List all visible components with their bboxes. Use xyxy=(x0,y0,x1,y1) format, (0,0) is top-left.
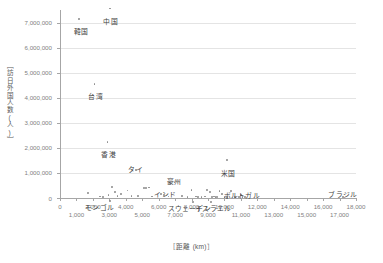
y-tick-label: 6,000,000 xyxy=(24,44,52,51)
scatter-chart: ［訪日外国人数(人)］ 01,000,0002,000,0003,000,000… xyxy=(0,0,383,263)
data-point-unlabeled xyxy=(201,196,203,198)
data-point-unlabeled xyxy=(151,196,153,198)
y-tick: 2,000,000 xyxy=(0,144,55,151)
data-point xyxy=(192,201,194,203)
data-point-unlabeled xyxy=(137,195,139,197)
data-point-label: ポルトガル xyxy=(224,192,260,200)
data-point xyxy=(109,8,111,10)
y-tick: 0 xyxy=(0,195,55,202)
y-tick: 5,000,000 xyxy=(0,69,55,76)
data-point-unlabeled xyxy=(191,189,193,191)
data-point-unlabeled xyxy=(148,187,150,189)
data-point-unlabeled xyxy=(219,190,221,192)
data-point-unlabeled xyxy=(87,192,89,194)
data-point xyxy=(210,201,212,203)
y-tick: 7,000,000 xyxy=(0,19,55,26)
data-point-label: モンゴル xyxy=(85,204,114,212)
data-point-label: インド xyxy=(154,191,176,199)
data-point-label: 米国 xyxy=(221,170,235,178)
y-tick-label: 0 xyxy=(49,195,52,202)
plot-area: 韓国中国台湾香港タイ米国豪州インドモンゴルスウェーデンイスラエルポルトガルブラジ… xyxy=(60,10,356,198)
y-tick-label: 1,000,000 xyxy=(24,169,52,176)
x-tick-label: 17,000 xyxy=(320,211,360,218)
data-point-unlabeled xyxy=(204,196,206,198)
y-tick: 6,000,000 xyxy=(0,44,55,51)
data-point-label: 台湾 xyxy=(88,93,102,101)
y-tick-label: 5,000,000 xyxy=(24,69,52,76)
data-point-label: 香港 xyxy=(101,151,115,159)
data-point xyxy=(109,200,111,202)
data-point-unlabeled xyxy=(206,189,208,191)
data-point-unlabeled xyxy=(197,196,199,198)
x-tick-mark xyxy=(274,198,275,201)
data-point-label: 豪州 xyxy=(167,178,181,186)
data-point xyxy=(226,159,228,161)
x-tick-mark xyxy=(126,198,127,201)
data-point-unlabeled xyxy=(221,193,223,195)
data-point-label: 韓国 xyxy=(74,28,88,36)
data-point-unlabeled xyxy=(181,195,183,197)
x-tick-mark xyxy=(208,198,209,201)
x-tick-mark xyxy=(60,198,61,201)
data-point-label: 中国 xyxy=(103,18,117,26)
x-tick-mark xyxy=(142,198,143,201)
data-point-unlabeled xyxy=(127,190,129,192)
data-point-unlabeled xyxy=(114,191,116,193)
data-point-unlabeled xyxy=(187,196,189,198)
x-tick-mark xyxy=(76,198,77,201)
data-point-label: イスラエル xyxy=(195,205,231,213)
x-tick-mark xyxy=(307,198,308,201)
data-point-unlabeled xyxy=(117,195,119,197)
x-tick-mark xyxy=(290,198,291,201)
x-tick-mark xyxy=(323,198,324,201)
data-point xyxy=(94,83,96,85)
x-axis-title: ［距離 (km)］ xyxy=(0,241,383,251)
x-tick-label: 18,000 xyxy=(336,203,376,210)
y-tick: 1,000,000 xyxy=(0,169,55,176)
data-point xyxy=(78,18,80,20)
data-point-unlabeled xyxy=(99,196,101,198)
data-point-unlabeled xyxy=(145,187,147,189)
y-tick-label: 4,000,000 xyxy=(24,94,52,101)
y-tick-label: 2,000,000 xyxy=(24,144,52,151)
data-point xyxy=(107,141,109,143)
data-point-unlabeled xyxy=(108,194,110,196)
data-point-unlabeled xyxy=(120,193,122,195)
y-tick-label: 3,000,000 xyxy=(24,119,52,126)
data-point-unlabeled xyxy=(209,191,211,193)
y-tick: 3,000,000 xyxy=(0,119,55,126)
y-tick: 4,000,000 xyxy=(0,94,55,101)
y-tick-label: 7,000,000 xyxy=(24,19,52,26)
data-point-label: タイ xyxy=(128,166,142,174)
data-point-unlabeled xyxy=(102,196,104,198)
data-point-unlabeled xyxy=(131,195,133,197)
data-point-unlabeled xyxy=(111,186,113,188)
data-point-label: ブラジル xyxy=(328,191,357,199)
data-point-unlabeled xyxy=(216,196,218,198)
x-tick-mark xyxy=(93,198,94,201)
